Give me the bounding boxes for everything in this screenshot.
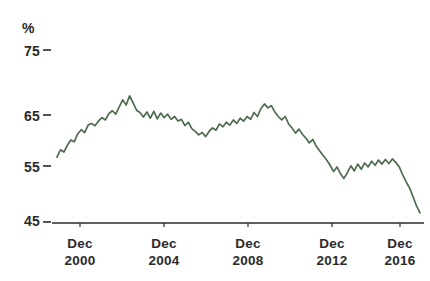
x-axis-tick-dec-2004: Dec 2004 xyxy=(134,235,194,270)
line-chart: % 75 65 55 45 Dec 2000 Dec 2004 Dec 2008… xyxy=(0,0,430,281)
x-axis-tick-dec-2012: Dec 2012 xyxy=(302,235,362,270)
x-tick-month: Dec xyxy=(134,235,194,252)
x-tick-year: 2008 xyxy=(218,252,278,269)
x-tick-month: Dec xyxy=(218,235,278,252)
x-tick-year: 2004 xyxy=(134,252,194,269)
x-axis-tick-dec-2000: Dec 2000 xyxy=(50,235,110,270)
x-axis-tick-dec-2008: Dec 2008 xyxy=(218,235,278,270)
x-tick-month: Dec xyxy=(50,235,110,252)
y-axis-ticks xyxy=(43,50,51,222)
x-axis-tick-dec-2016: Dec 2016 xyxy=(370,235,430,270)
x-tick-month: Dec xyxy=(302,235,362,252)
x-tick-year: 2012 xyxy=(302,252,362,269)
data-line-series-1 xyxy=(57,96,420,213)
x-tick-year: 2016 xyxy=(370,252,430,269)
x-tick-year: 2000 xyxy=(50,252,110,269)
x-tick-month: Dec xyxy=(370,235,430,252)
